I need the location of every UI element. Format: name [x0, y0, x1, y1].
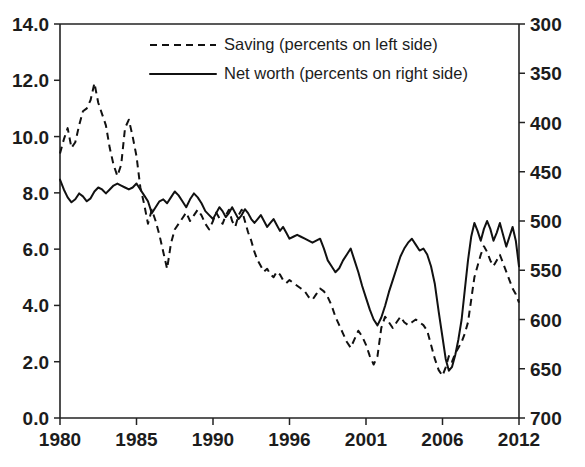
x-axis-tick-label: 2012	[498, 429, 540, 450]
chart-container: 0.02.04.06.08.010.012.014.0 300350400450…	[0, 0, 585, 467]
right-axis-tick-label: 350	[530, 63, 562, 84]
data-series-group	[60, 83, 519, 376]
right-axis-tick-label: 500	[530, 211, 562, 232]
left-axis-tick-label: 6.0	[23, 239, 49, 260]
legend-label-saving: Saving (percents on left side)	[224, 35, 438, 53]
series-line-networth	[60, 180, 519, 371]
right-axis-tick-label: 550	[530, 260, 562, 281]
x-axis-tick-label: 1985	[115, 429, 158, 450]
legend-label-networth: Net worth (percents on right side)	[224, 64, 468, 82]
right-axis-tick-label: 700	[530, 408, 562, 429]
right-axis-tick-label: 450	[530, 162, 562, 183]
left-axis-tick-label: 14.0	[12, 14, 49, 35]
right-axis-tick-label: 400	[530, 113, 562, 134]
x-axis: 1980198519901996200120062012	[39, 418, 540, 450]
x-axis-tick-label: 1996	[268, 429, 310, 450]
x-axis-tick-label: 1980	[39, 429, 81, 450]
axis-frame	[60, 24, 519, 418]
chart-legend: Saving (percents on left side)Net worth …	[150, 35, 468, 82]
chart-plot-svg: 0.02.04.06.08.010.012.014.0 300350400450…	[0, 0, 585, 467]
x-axis-tick-label: 2001	[345, 429, 388, 450]
left-axis-tick-label: 10.0	[12, 127, 49, 148]
right-axis-tick-label: 650	[530, 359, 562, 380]
right-axis-tick-label: 600	[530, 310, 562, 331]
series-line-saving	[60, 83, 519, 376]
right-axis: 300350400450500550600650700	[519, 14, 562, 429]
left-axis: 0.02.04.06.08.010.012.014.0	[12, 14, 60, 429]
x-axis-tick-label: 2006	[421, 429, 463, 450]
left-axis-tick-label: 0.0	[23, 408, 49, 429]
left-axis-tick-label: 12.0	[12, 70, 49, 91]
right-axis-tick-label: 300	[530, 14, 562, 35]
chart-title	[0, 0, 585, 5]
left-axis-tick-label: 8.0	[23, 183, 49, 204]
left-axis-tick-label: 2.0	[23, 352, 49, 373]
left-axis-tick-label: 4.0	[23, 295, 49, 316]
x-axis-tick-label: 1990	[192, 429, 234, 450]
